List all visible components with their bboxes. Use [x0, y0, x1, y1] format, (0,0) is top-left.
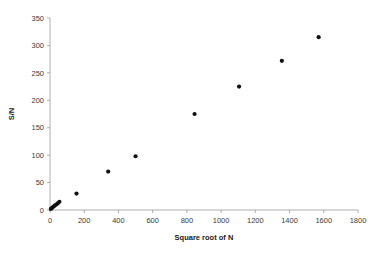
- x-tick-label: 200: [78, 216, 91, 225]
- x-tick-label: 1400: [281, 216, 298, 225]
- scatter-chart: 050100150200250300350 020040060080010001…: [0, 0, 376, 255]
- x-tick-label: 1000: [213, 216, 230, 225]
- x-axis-tick-group: 020040060080010001200140016001800: [48, 210, 366, 225]
- chart-svg: 050100150200250300350 020040060080010001…: [0, 0, 376, 255]
- y-tick-label: 100: [31, 151, 44, 160]
- y-tick-label: 50: [36, 178, 44, 187]
- x-tick-label: 1200: [247, 216, 264, 225]
- data-points-group: [49, 35, 321, 211]
- y-tick-label: 200: [31, 96, 44, 105]
- data-point: [317, 35, 321, 39]
- x-axis-title: Square root of N: [175, 233, 234, 242]
- y-tick-label: 0: [40, 206, 44, 215]
- x-tick-label: 0: [48, 216, 52, 225]
- data-point: [133, 154, 137, 158]
- data-point: [280, 59, 284, 63]
- y-tick-label: 300: [31, 41, 44, 50]
- y-tick-label: 150: [31, 123, 44, 132]
- x-tick-label: 800: [181, 216, 194, 225]
- data-point: [192, 112, 196, 116]
- x-tick-label: 1800: [350, 216, 367, 225]
- y-axis-tick-group: 050100150200250300350: [31, 14, 50, 215]
- y-tick-label: 250: [31, 69, 44, 78]
- data-point: [106, 170, 110, 174]
- y-tick-label: 350: [31, 14, 44, 23]
- x-tick-label: 600: [146, 216, 159, 225]
- x-tick-label: 1600: [315, 216, 332, 225]
- data-point: [74, 191, 78, 195]
- x-tick-label: 400: [112, 216, 125, 225]
- data-point: [57, 200, 61, 204]
- y-axis-title: S/N: [7, 108, 16, 121]
- data-point: [237, 84, 241, 88]
